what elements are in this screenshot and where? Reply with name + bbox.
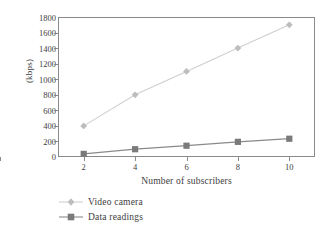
y-tick-mark-400: [54, 126, 58, 127]
y-tick-label-1400: 1400: [28, 45, 56, 54]
x-tick-label-10: 10: [277, 163, 301, 172]
y-tick-label-1800: 1800: [28, 14, 56, 23]
y-tick-mark-1400: [54, 48, 58, 49]
diamond-marker-icon: [58, 196, 84, 208]
y-tick-mark-800: [54, 95, 58, 96]
x-tick-mark-10: [289, 157, 290, 161]
y-tick-mark-1600: [54, 33, 58, 34]
y-tick-label-1600: 1600: [28, 29, 56, 38]
x-tick-mark-6: [187, 157, 188, 161]
y-tick-label-1000: 1000: [28, 76, 56, 85]
plot-area: [58, 17, 315, 157]
square-marker-icon: [58, 211, 84, 223]
y-tick-mark-1200: [54, 64, 58, 65]
legend-item-data-readings[interactable]: Data readings: [58, 209, 258, 224]
y-tick-label-600: 600: [28, 107, 56, 116]
x-tick-label-6: 6: [175, 163, 199, 172]
chart-legend: Video camera Data readings: [58, 194, 258, 224]
x-tick-label-2: 2: [72, 163, 96, 172]
x-tick-label-8: 8: [226, 163, 250, 172]
y-tick-label-200: 200: [28, 138, 56, 147]
y-tick-label-800: 800: [28, 91, 56, 100]
y-tick-mark-200: [54, 141, 58, 142]
x-tick-label-4: 4: [123, 163, 147, 172]
y-tick-mark-600: [54, 110, 58, 111]
y-tick-label-400: 400: [28, 122, 56, 131]
legend-label-data-readings: Data readings: [84, 212, 143, 222]
y-tick-mark-1000: [54, 79, 58, 80]
y-axis-ticks: 1800 1600 1400 1200 1000 800 600 400 200…: [24, 0, 56, 227]
y-tick-label-0: 0: [28, 153, 56, 162]
x-axis-label: Number of subscribers: [58, 176, 315, 186]
chart-figure: (kbps) 1800 1600 1400 1200 1000 800 600 …: [0, 0, 330, 227]
y-tick-label-1200: 1200: [28, 60, 56, 69]
x-tick-mark-2: [84, 157, 85, 161]
x-tick-mark-8: [238, 157, 239, 161]
x-tick-mark-4: [135, 157, 136, 161]
legend-item-video-camera[interactable]: Video camera: [58, 194, 258, 209]
legend-label-video-camera: Video camera: [84, 197, 143, 207]
